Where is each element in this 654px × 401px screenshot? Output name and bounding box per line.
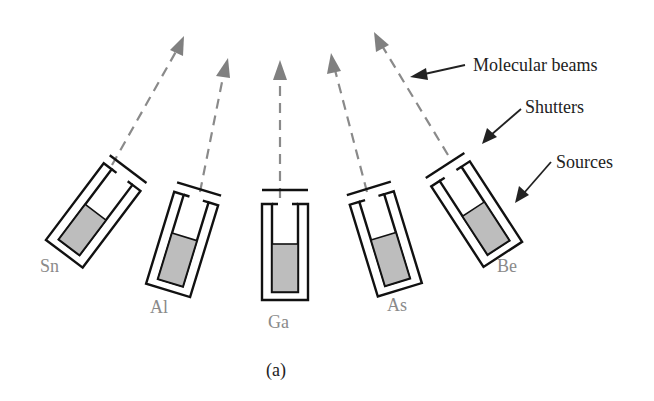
source-label-ga: Ga <box>268 312 289 332</box>
beam-al <box>200 58 230 192</box>
callout-sources: Sources <box>515 152 613 203</box>
source-label-be: Be <box>497 256 517 276</box>
source-label-al: Al <box>150 297 168 317</box>
callout-shutters: Shutters <box>482 97 584 144</box>
beam-sn <box>112 36 184 165</box>
shutter-be <box>426 153 465 178</box>
source-cell-be <box>426 153 522 267</box>
mbe-sources-diagram: Sn Al Ga As Be Molecular beams Shutters … <box>0 0 654 401</box>
beam-as <box>327 53 367 192</box>
callout-label-sources: Sources <box>556 152 613 172</box>
source-cell-as <box>347 182 422 297</box>
source-cell-al <box>146 182 221 297</box>
callout-molecular-beams: Molecular beams <box>410 55 597 80</box>
source-label-sn: Sn <box>40 256 59 276</box>
source-cell-sn <box>46 155 147 267</box>
shutter-sn <box>110 155 147 183</box>
beam-ga <box>273 60 287 198</box>
source-cell-ga <box>262 190 308 300</box>
beam-be <box>374 32 448 155</box>
figure-caption: (a) <box>266 360 286 381</box>
source-label-as: As <box>387 295 407 315</box>
callout-label-molecular-beams: Molecular beams <box>473 55 597 75</box>
molecular-beams <box>112 32 448 198</box>
callout-label-shutters: Shutters <box>525 97 584 117</box>
